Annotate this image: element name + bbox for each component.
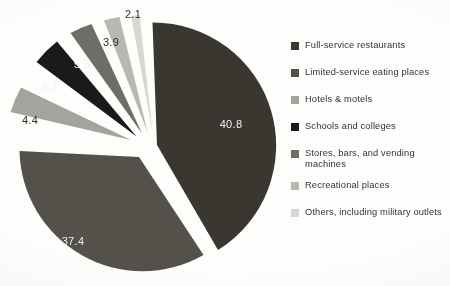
legend-item-label: Recreational places [305,180,390,191]
legend-swatch-icon [291,42,299,50]
legend-swatch-icon [291,150,299,158]
legend-item-label: Others, including military outlets [305,207,442,218]
legend-item-limited-service-eating-places[interactable]: Limited-service eating places [291,67,447,78]
pie-slice-value-stores-bars-and-vending-machines: 5.3 [74,58,90,70]
pie-chart-figure: 40.8 37.4 4.4 6.1 5.3 3.9 2.1 Full-servi… [0,0,450,286]
pie-slice-value-limited-service-eating-places: 37.4 [62,235,85,247]
legend-swatch-icon [291,209,299,217]
legend: Full-service restaurants Limited-service… [291,40,447,234]
legend-item-label: Full-service restaurants [305,40,405,51]
legend-item-recreational-places[interactable]: Recreational places [291,180,447,191]
pie-slice-value-full-service-restaurants: 40.8 [220,118,243,130]
legend-item-label: Hotels & motels [305,94,372,105]
legend-swatch-icon [291,123,299,131]
legend-swatch-icon [291,69,299,77]
legend-item-others-including-military-outlets[interactable]: Others, including military outlets [291,207,447,218]
legend-swatch-icon [291,182,299,190]
legend-item-stores-bars-and-vending-machines[interactable]: Stores, bars, and vending machines [291,148,447,170]
pie-chart-svg: 40.8 37.4 4.4 6.1 5.3 3.9 2.1 [0,0,285,286]
pie-slice-value-others-including-military-outlets: 2.1 [125,8,141,20]
legend-item-full-service-restaurants[interactable]: Full-service restaurants [291,40,447,51]
pie-slice-value-schools-and-colleges: 6.1 [42,80,58,92]
pie-slice-value-recreational-places: 3.9 [103,36,119,48]
legend-item-label: Limited-service eating places [305,67,429,78]
legend-item-schools-and-colleges[interactable]: Schools and colleges [291,121,447,132]
legend-swatch-icon [291,96,299,104]
legend-item-label: Schools and colleges [305,121,396,132]
pie-slice-value-hotels-and-motels: 4.4 [22,114,38,126]
legend-item-hotels-and-motels[interactable]: Hotels & motels [291,94,447,105]
legend-item-label: Stores, bars, and vending machines [305,148,447,170]
pie-chart-plot-area: 40.8 37.4 4.4 6.1 5.3 3.9 2.1 [0,0,285,286]
